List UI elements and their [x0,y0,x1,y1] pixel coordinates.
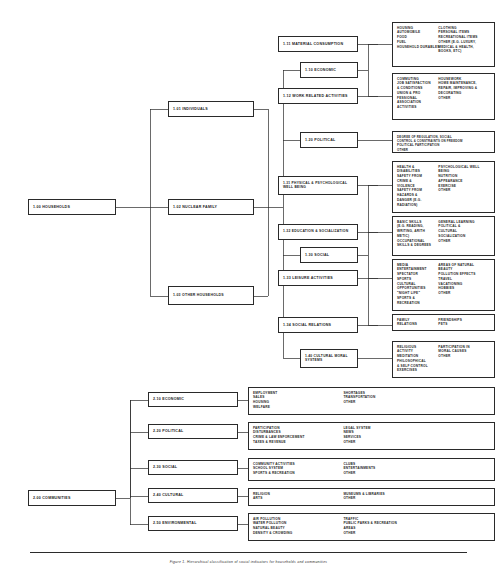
node-political-220[interactable]: 2.20 POLITICAL [148,424,238,439]
node-communities-root[interactable]: 2.00 COMMUNITIES [28,490,116,506]
detail-col-left: DEGREE OF REGULATION, SOCIAL CONTROL & C… [397,135,491,150]
node-political-120[interactable]: 1.20 POLITICAL [300,132,358,148]
detail-col-left: FAMILY RELATIONS [397,318,438,328]
node-cultural-moral-140[interactable]: 1.40 CULTURAL MORAL SYSTEMS [300,349,358,368]
detail-col-left: COMMUNITY ACTIVITIES SCHOOL SYSTEM SPORT… [253,462,343,478]
node-nuclear-family[interactable]: 1.02 NUCLEAR FAMILY [168,199,254,215]
node-economic-110[interactable]: 1.10 ECONOMIC [300,62,358,78]
footer-rule [30,552,467,553]
detail-col-right: CLUBS ENTERTAINMENTS OTHER [343,462,491,478]
node-leisure-133[interactable]: 1.33 LEISURE ACTIVITIES [278,270,358,286]
detail-col-right: PARTICIPATION IN MORAL CAUSES OTHER [438,345,491,375]
detail-col-left: MEDIA ENTERTAINMENT SPECTATOR SPORTS CUL… [397,263,438,308]
node-social-130[interactable]: 1.30 SOCIAL [300,247,358,263]
social-indicators-diagram: 1.00 HOUSEHOLDS 1.01 INDIVIDUALS 1.02 NU… [0,0,497,574]
detail-community-environmental: AIR POLLUTION WATER POLLUTION NATURAL BE… [248,513,495,541]
detail-col-left: COMMUTING JOB SATISFACTION & CONDITIONS … [397,77,438,117]
detail-col-right: FRIENDSHIPS PETS [438,318,491,328]
node-environmental-250[interactable]: 2.50 ENVIRONMENTAL [148,516,238,531]
node-material-consumption-111[interactable]: 1.11 MATERIAL CONSUMPTION [278,36,358,52]
detail-material-consumption: HOUSING AUTOMOBILE FOOD FUEL HOUSEHOLD D… [392,22,495,67]
node-work-related-112[interactable]: 1.12 WORK RELATED ACTIVITIES [278,88,358,104]
detail-col-right: SHORTAGES TRANSPORTATION OTHER [343,391,491,412]
detail-col-right: AREAS OF NATURAL BEAUTY POLLUTION EFFECT… [438,263,491,308]
detail-col-left: RELIGIOUS ACTIVITY MEDITATION PHILOSOPHI… [397,345,438,375]
detail-col-right: TRAFFIC PUBLIC PARKS & RECREATION AREAS … [343,517,491,538]
detail-col-left: EMPLOYMENT SALES HOUSING WELFARE [253,391,343,412]
detail-col-left: HEALTH & DISABILITIES SAFETY FROM CRIME … [397,165,438,210]
node-households-root[interactable]: 1.00 HOUSEHOLDS [28,199,116,215]
detail-social-relations: FAMILY RELATIONS FRIENDSHIPS PETS [392,314,495,331]
detail-col-left: BASIC SKILLS (E.G. READING, WRITING, ARI… [397,220,438,253]
detail-physical-psychological-wellbeing: HEALTH & DISABILITIES SAFETY FROM CRIME … [392,161,495,213]
detail-education-socialization: BASIC SKILLS (E.G. READING, WRITING, ARI… [392,216,495,256]
detail-col-left: HOUSING AUTOMOBILE FOOD FUEL HOUSEHOLD D… [397,26,438,64]
detail-col-right: GENERAL LEARNING POLITICAL & CULTURAL SO… [438,220,491,253]
node-other-households[interactable]: 1.03 OTHER HOUSEHOLDS [168,286,254,305]
detail-community-economic: EMPLOYMENT SALES HOUSING WELFARE SHORTAG… [248,387,495,415]
detail-col-right: MUSEUMS & LIBRARIES OTHER [343,492,491,503]
node-economic-210[interactable]: 2.10 ECONOMIC [148,392,238,407]
detail-col-left: PARTICIPATION DISTURBANCES CRIME & LAW E… [253,426,343,447]
detail-community-cultural: RELIGION ARTS MUSEUMS & LIBRARIES OTHER [248,488,495,506]
detail-work-related-activities: COMMUTING JOB SATISFACTION & CONDITIONS … [392,73,495,120]
node-cultural-240[interactable]: 2.40 CULTURAL [148,488,238,503]
detail-community-political: PARTICIPATION DISTURBANCES CRIME & LAW E… [248,422,495,450]
detail-community-social: COMMUNITY ACTIVITIES SCHOOL SYSTEM SPORT… [248,458,495,481]
detail-col-right: HOUSEWORK HOME MAINTENANCE, REPAIR, IMPR… [438,77,491,117]
detail-col-right: PSYCHOLOGICAL WELL BEING NUTRITION APPEA… [438,165,491,210]
node-social-relations-134[interactable]: 1.34 SOCIAL RELATIONS [278,317,358,333]
node-individuals[interactable]: 1.01 INDIVIDUALS [168,101,254,117]
detail-political: DEGREE OF REGULATION, SOCIAL CONTROL & C… [392,131,495,153]
detail-col-left: AIR POLLUTION WATER POLLUTION NATURAL BE… [253,517,343,538]
node-wellbeing-131[interactable]: 1.31 PHYSICAL & PSYCHOLOGICAL WELL BEING [278,176,358,195]
detail-col-left: RELIGION ARTS [253,492,343,503]
figure-caption: Figure 1. Hierarchical classification of… [0,560,497,564]
node-education-132[interactable]: 1.32 EDUCATION & SOCIALIZATION [278,224,358,240]
detail-cultural-moral-systems: RELIGIOUS ACTIVITY MEDITATION PHILOSOPHI… [392,341,495,378]
detail-col-right: LEGAL SYSTEM NEWS SERVICES OTHER [343,426,491,447]
detail-leisure-activities: MEDIA ENTERTAINMENT SPECTATOR SPORTS CUL… [392,259,495,311]
node-social-230[interactable]: 2.30 SOCIAL [148,460,238,475]
detail-col-right: CLOTHING PERSONAL ITEMS RECREATIONAL ITE… [438,26,491,64]
